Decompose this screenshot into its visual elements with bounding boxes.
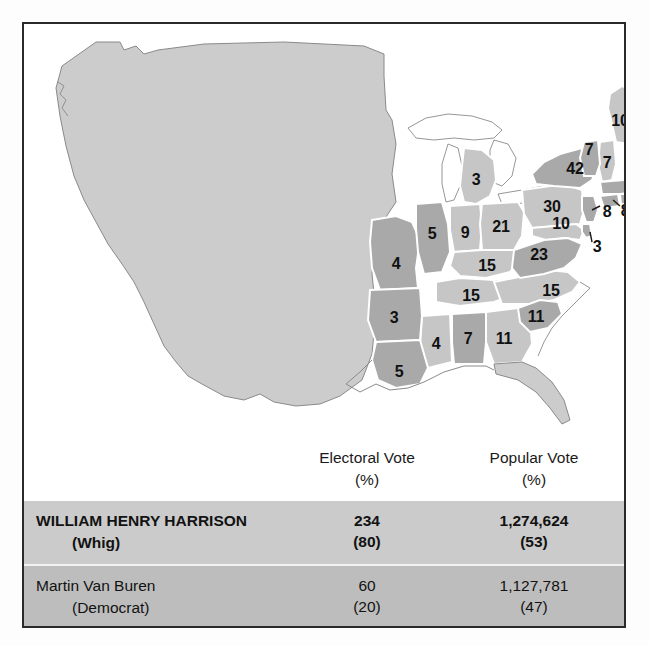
column-header-popular-vote: Popular Vote (%) [454, 447, 614, 491]
candidate-name-van-buren: Martin Van Buren [36, 575, 155, 596]
state-label-michigan: 3 [472, 172, 481, 188]
state-label-ohio: 21 [492, 219, 509, 235]
us-map-svg [24, 24, 624, 439]
state-label-virginia: 23 [530, 247, 547, 263]
state-label-kentucky: 15 [478, 258, 495, 274]
state-label-missouri: 4 [392, 256, 401, 272]
table-row-harrison: WILLIAM HENRY HARRISON (Whig) 234 (80) 1… [24, 501, 624, 564]
state-label-georgia: 11 [496, 331, 513, 347]
van-buren-popular-cell: 1,127,781 (47) [454, 575, 614, 618]
state-label-alabama: 7 [464, 331, 473, 347]
column-header-electoral-vote: Electoral Vote (%) [292, 447, 442, 491]
state-label-new-hampshire: 7 [603, 155, 612, 171]
western-territories [56, 42, 396, 406]
state-label-arkansas: 3 [390, 310, 399, 326]
election-results-table: Electoral Vote (%) Popular Vote (%) WILL… [24, 439, 624, 626]
state-label-illinois: 5 [428, 226, 437, 242]
state-label-maine: 10 [611, 113, 624, 129]
us-electoral-map: 10 7 7 14 4 8 8 42 30 10 3 23 15 11 11 7… [24, 24, 624, 439]
harrison-electoral-cell: 234 (80) [292, 510, 442, 553]
van-buren-electoral-cell: 60 (20) [292, 575, 442, 618]
state-label-massachusetts: 14 [623, 157, 624, 173]
state-label-pennsylvania: 30 [543, 199, 560, 215]
state-label-louisiana: 5 [395, 364, 404, 380]
state-label-new-jersey: 8 [603, 204, 612, 220]
state-label-maryland: 10 [552, 216, 569, 232]
candidate-party-harrison: (Whig) [36, 532, 120, 553]
table-header-row: Electoral Vote (%) Popular Vote (%) [24, 439, 624, 501]
state-label-vermont: 7 [585, 142, 594, 158]
state-label-north-carolina: 15 [542, 283, 559, 299]
state-label-new-york: 42 [566, 161, 583, 177]
state-label-delaware: 3 [593, 239, 602, 255]
election-map-figure: 10 7 7 14 4 8 8 42 30 10 3 23 15 11 11 7… [0, 0, 649, 645]
harrison-popular-cell: 1,274,624 (53) [454, 510, 614, 553]
candidate-party-van-buren: (Democrat) [36, 597, 150, 618]
table-row-van-buren: Martin Van Buren (Democrat) 60 (20) 1,12… [24, 564, 624, 626]
state-label-indiana: 9 [461, 225, 470, 241]
state-label-south-carolina: 11 [528, 309, 545, 325]
state-label-tennessee: 15 [462, 288, 479, 304]
florida-territory [494, 362, 570, 424]
state-label-mississippi: 4 [432, 336, 441, 352]
candidate-name-harrison: WILLIAM HENRY HARRISON [36, 510, 247, 531]
figure-frame: 10 7 7 14 4 8 8 42 30 10 3 23 15 11 11 7… [22, 22, 626, 628]
state-label-connecticut: 8 [621, 203, 624, 219]
